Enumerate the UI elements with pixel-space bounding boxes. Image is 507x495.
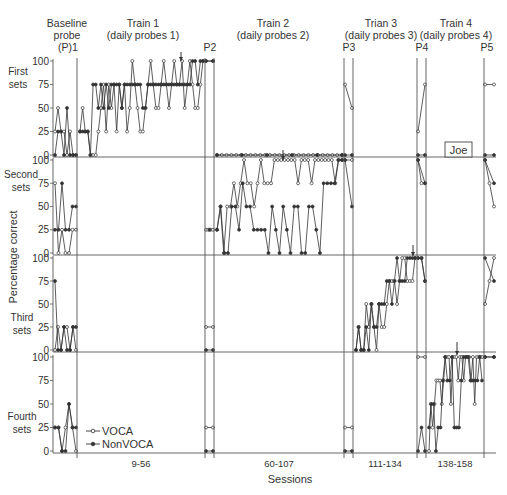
nonvoca-point [249, 205, 252, 208]
nonvoca-point [71, 205, 74, 208]
nonvoca-point [66, 349, 69, 352]
nonvoca-point [457, 426, 460, 429]
nonvoca-point [414, 257, 417, 260]
nonvoca-point [120, 107, 123, 110]
nonvoca-point [274, 228, 277, 231]
y-tick-label: 50 [38, 299, 50, 310]
nonvoca-point [57, 228, 60, 231]
range-train1: 9-56 [131, 458, 150, 469]
voca-point [167, 107, 170, 110]
legend-item-nonvoca: NonVOCA [86, 438, 154, 450]
y-tick-label: 75 [38, 79, 50, 90]
voca-point [411, 280, 414, 283]
phase-title-train3-1: Trian 3 [365, 17, 397, 29]
voca-point [66, 154, 69, 157]
voca-point [313, 159, 316, 162]
voca-point [196, 107, 199, 110]
range-train4: 138-158 [438, 458, 473, 469]
voca-point [307, 159, 310, 162]
participant-name: Joe [450, 144, 468, 156]
nonvoca-point [355, 349, 358, 352]
nonvoca-point [300, 252, 303, 255]
nonvoca-point [476, 379, 479, 382]
voca-point [448, 356, 451, 359]
y-tick-label: 25 [38, 224, 50, 235]
nonvoca-point [370, 303, 373, 306]
voca-point [431, 426, 434, 429]
nonvoca-point [57, 349, 60, 352]
voca-point [473, 403, 476, 406]
voca-point [270, 182, 273, 185]
y-tick-label: 25 [38, 322, 50, 333]
nonvoca-point [61, 182, 64, 185]
voca-point [420, 182, 423, 185]
nonvoca-point [267, 252, 270, 255]
nonvoca-point [329, 182, 332, 185]
probe-labels: (P)1 P2 P3 P4 P5 [58, 41, 494, 53]
nonvoca-point [493, 182, 496, 185]
nonvoca-point [388, 280, 391, 283]
voca-point [183, 107, 186, 110]
open-circle-icon [91, 429, 95, 433]
set-label-second-1: Second [4, 169, 38, 180]
y-tick-label: 75 [38, 178, 50, 189]
voca-point [232, 182, 235, 185]
phase-title-baseline-1: Baseline [47, 17, 87, 29]
nonvoca-point [375, 326, 378, 329]
voca-point [64, 252, 67, 255]
nonvoca-point [54, 426, 57, 429]
range-train3: 111-134 [368, 458, 401, 469]
nonvoca-point [69, 154, 72, 157]
voca-point [493, 257, 496, 260]
phase-title-train4-2: (daily probes 4) [420, 29, 492, 41]
filled-circle-icon [91, 442, 95, 446]
nonvoca-point [105, 83, 108, 86]
nonvoca-point [61, 450, 64, 453]
phase-title-baseline-2: probe [54, 29, 81, 41]
voca-point [300, 159, 303, 162]
voca-point [471, 356, 474, 359]
phase-title-train3-2: (daily probes 3) [345, 29, 417, 41]
set-label-first-1: First [8, 66, 28, 77]
voca-point [297, 182, 300, 185]
nonvoca-point [307, 205, 310, 208]
nonvoca-point [97, 107, 100, 110]
nonvoca-point [448, 379, 451, 382]
nonvoca-point [245, 205, 248, 208]
nonvoca-point [72, 326, 75, 329]
nonvoca-point [293, 205, 296, 208]
voca-point [57, 252, 60, 255]
phase-title-train2-1: Train 2 [257, 17, 289, 29]
voca-point [256, 182, 259, 185]
voca-point [128, 107, 131, 110]
nonvoca-point [441, 379, 444, 382]
nonvoca-point [341, 159, 344, 162]
nonvoca-point [493, 280, 496, 283]
voca-point [493, 205, 496, 208]
voca-point [57, 107, 60, 110]
nonvoca-point [403, 280, 406, 283]
voca-point [327, 159, 330, 162]
nonvoca-point [63, 154, 66, 157]
probe-label-p5: P5 [481, 41, 494, 53]
voca-point [455, 356, 458, 359]
voca-point [303, 159, 306, 162]
nonvoca-point [241, 154, 244, 157]
voca-point [457, 379, 460, 382]
voca-point [320, 159, 323, 162]
legend-label-nonvoca: NonVOCA [102, 438, 154, 450]
voca-point [94, 154, 97, 157]
nonvoca-point [86, 130, 89, 133]
nonvoca-point [311, 205, 314, 208]
y-tick-label: 100 [32, 56, 49, 67]
nonvoca-point [54, 228, 57, 231]
legend-item-voca: VOCA [86, 425, 134, 437]
nonvoca-point [68, 228, 71, 231]
nonvoca-point [194, 60, 197, 63]
nonvoca-point [216, 154, 219, 157]
nonvoca-point [271, 205, 274, 208]
phase-title-train2-2: (daily probes 2) [237, 29, 309, 41]
voca-point [286, 159, 289, 162]
voca-point [276, 159, 279, 162]
nonvoca-point [208, 228, 211, 231]
